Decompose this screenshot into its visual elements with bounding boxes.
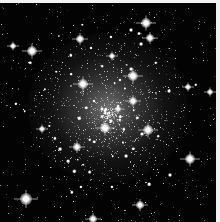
faint-star <box>63 98 64 99</box>
faint-star <box>105 97 106 98</box>
faint-star <box>111 116 112 117</box>
faint-star <box>99 133 100 134</box>
faint-star <box>113 67 114 68</box>
faint-star <box>133 165 134 166</box>
faint-star <box>213 119 214 120</box>
faint-star <box>130 162 131 163</box>
faint-star <box>161 153 162 154</box>
faint-star <box>53 186 54 187</box>
faint-star <box>107 120 108 121</box>
faint-star <box>131 173 132 174</box>
faint-star <box>15 117 16 118</box>
faint-star <box>102 141 103 142</box>
faint-star <box>99 194 100 195</box>
star <box>124 155 128 159</box>
faint-star <box>16 4 17 5</box>
faint-star <box>87 123 88 124</box>
faint-star <box>18 63 19 64</box>
faint-star <box>35 80 36 81</box>
faint-star <box>149 120 150 121</box>
faint-star <box>11 68 12 69</box>
faint-star <box>128 106 129 107</box>
faint-star <box>162 116 163 117</box>
faint-star <box>70 136 71 137</box>
faint-star <box>118 82 119 83</box>
faint-star <box>107 85 108 86</box>
faint-star <box>118 43 119 44</box>
faint-star <box>101 151 102 152</box>
faint-star <box>150 73 151 74</box>
faint-star <box>117 185 118 186</box>
faint-star <box>140 154 141 155</box>
faint-star <box>56 178 57 179</box>
faint-star <box>54 90 55 91</box>
faint-star <box>90 180 91 181</box>
diffraction-spike <box>105 121 106 136</box>
faint-star <box>138 77 139 78</box>
faint-star <box>137 138 138 139</box>
faint-star <box>138 55 139 56</box>
star <box>157 135 160 138</box>
faint-star <box>115 139 116 140</box>
faint-star <box>186 182 187 183</box>
faint-star <box>123 183 124 184</box>
faint-star <box>141 83 142 84</box>
faint-star <box>97 102 98 103</box>
faint-star <box>149 14 150 15</box>
faint-star <box>39 80 40 81</box>
faint-star <box>146 100 147 101</box>
faint-star <box>204 22 205 23</box>
faint-star <box>67 97 68 98</box>
diffraction-spike <box>112 52 113 61</box>
faint-star <box>7 33 8 34</box>
faint-star <box>49 118 50 119</box>
faint-star <box>107 99 108 100</box>
faint-star <box>107 33 108 34</box>
faint-star <box>178 137 179 138</box>
faint-star <box>111 137 112 138</box>
faint-star <box>91 106 92 107</box>
faint-star <box>77 76 78 77</box>
faint-star <box>120 121 121 122</box>
faint-star <box>12 88 13 89</box>
faint-star <box>93 88 94 89</box>
faint-star <box>136 198 137 199</box>
faint-star <box>64 117 65 118</box>
faint-star <box>138 140 139 141</box>
faint-star <box>82 49 83 50</box>
diffraction-spike <box>146 16 147 31</box>
faint-star <box>6 93 7 94</box>
faint-star <box>156 14 157 15</box>
faint-star <box>169 48 170 49</box>
faint-star <box>134 202 135 203</box>
faint-star <box>59 179 60 180</box>
faint-star <box>153 169 154 170</box>
faint-star <box>71 151 72 152</box>
faint-star <box>102 146 103 147</box>
faint-star <box>204 220 205 221</box>
faint-star <box>117 69 118 70</box>
faint-star <box>92 120 93 121</box>
faint-star <box>93 156 94 157</box>
faint-star <box>59 71 60 72</box>
faint-star <box>37 95 38 96</box>
faint-star <box>36 44 37 45</box>
faint-star <box>168 138 169 139</box>
faint-star <box>131 145 132 146</box>
faint-star <box>123 131 124 132</box>
faint-star <box>156 196 157 197</box>
faint-star <box>108 96 109 97</box>
faint-star <box>96 76 97 77</box>
faint-star <box>54 60 55 61</box>
faint-star <box>60 161 61 162</box>
faint-star <box>121 104 122 105</box>
faint-star <box>89 102 90 103</box>
faint-star <box>107 79 108 80</box>
faint-star <box>91 133 92 134</box>
faint-star <box>111 85 112 86</box>
faint-star <box>134 164 135 165</box>
faint-star <box>58 129 59 130</box>
faint-star <box>96 98 97 99</box>
faint-star <box>142 147 143 148</box>
faint-star <box>52 79 53 80</box>
